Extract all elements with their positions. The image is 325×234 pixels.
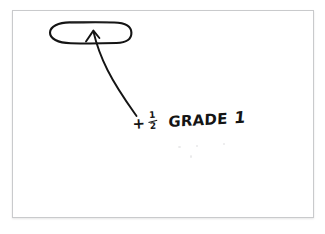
scan-speck [178,146,181,148]
scanned-page: + 1 2 GRADE 1 [0,0,325,234]
scan-speck [223,143,225,145]
scan-speck [190,155,192,158]
hand-drawn-oval [50,22,131,43]
arrowhead [86,31,99,42]
scan-speck [196,145,198,147]
handwriting-annotation-layer [0,0,325,234]
